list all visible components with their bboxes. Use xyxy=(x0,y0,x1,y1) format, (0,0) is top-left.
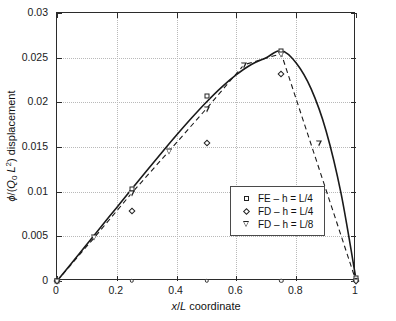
legend-label-0: FE – h = L/4 xyxy=(258,193,313,204)
triangle-down-marker xyxy=(241,62,247,68)
x-tick-label: 0 xyxy=(53,284,59,296)
chart-figure: ϕ/(Q0 L2) displacement x/L coordinate FE… xyxy=(0,0,396,321)
triangle-down-marker xyxy=(204,106,210,112)
y-tick-label: 0.005 xyxy=(0,229,48,241)
triangle-down-marker xyxy=(316,140,322,146)
baseline-circle-marker xyxy=(130,279,134,283)
square-marker xyxy=(204,94,209,99)
y-tick-label: 0.03 xyxy=(0,6,48,18)
triangle-down-marker xyxy=(166,149,172,155)
baseline-circle-marker xyxy=(279,279,283,283)
legend-label-2: FD – h = L/8 xyxy=(258,219,313,230)
x-axis-title: x/L coordinate xyxy=(171,300,240,312)
x-tick xyxy=(356,13,357,18)
y-tick-label: 0 xyxy=(0,274,48,286)
x-tick-label: 0.6 xyxy=(228,284,243,296)
baseline-circle-marker xyxy=(204,279,208,283)
y-tick-label: 0.01 xyxy=(0,185,48,197)
legend-label-1: FD – h = L/4 xyxy=(258,206,313,217)
y-tick-label: 0.02 xyxy=(0,95,48,107)
y-tick-label: 0.015 xyxy=(0,140,48,152)
legend-item: FD – h = L/8 xyxy=(236,218,319,230)
diamond-marker-icon xyxy=(236,205,256,217)
legend-item: FE – h = L/4 xyxy=(236,192,319,204)
plot-area: FE – h = L/4 FD – h = L/4 FD – h = L/8 xyxy=(56,12,355,280)
y-tick-label: 0.025 xyxy=(0,51,48,63)
triangle-down-marker xyxy=(91,235,97,241)
square-marker-icon xyxy=(236,192,256,204)
x-tick-label: 1 xyxy=(352,284,358,296)
triangle-down-marker xyxy=(278,51,284,57)
chart-legend: FE – h = L/4 FD – h = L/4 FD – h = L/8 xyxy=(230,186,325,236)
legend-item: FD – h = L/4 xyxy=(236,205,319,217)
x-tick-label: 0.2 xyxy=(108,284,123,296)
triangle-marker-icon xyxy=(236,218,256,230)
triangle-down-marker xyxy=(129,191,135,197)
x-tick-label: 0.4 xyxy=(168,284,183,296)
x-tick-label: 0.8 xyxy=(288,284,303,296)
curve-exact-solid xyxy=(57,50,356,281)
